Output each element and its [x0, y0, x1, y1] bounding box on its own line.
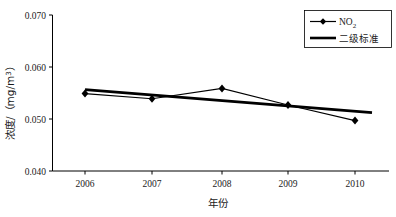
x-tick-label: 2006 — [76, 179, 95, 189]
x-tick-labels: 2006 2007 2008 2009 2010 — [76, 179, 365, 189]
svg-text:浓度/（mg/m3）: 浓度/（mg/m3） — [4, 61, 16, 140]
x-tick-label: 2007 — [143, 179, 162, 189]
series-markers-no2 — [82, 84, 359, 124]
y-tick-label: 0.060 — [25, 63, 47, 73]
x-tick-label: 2008 — [213, 179, 232, 189]
y-tick-label: 0.070 — [25, 11, 47, 21]
y-axis-title-end: ） — [4, 61, 16, 71]
x-axis-ticks — [85, 171, 355, 175]
y-tick-label: 0.050 — [25, 115, 47, 125]
chart-legend[interactable]: NO2 二级标准 — [305, 11, 392, 48]
y-axis-title: 浓度/（mg/m3） — [4, 61, 16, 140]
data-point-marker — [352, 117, 359, 125]
y-axis-title-main: 浓度/（mg/m — [4, 76, 16, 140]
series-line-standard — [85, 90, 372, 113]
chart-container: 0.070 0.060 0.050 0.040 2006 2007 2008 2… — [0, 0, 396, 217]
x-tick-label: 2010 — [346, 179, 365, 189]
y-axis-ticks — [49, 15, 53, 171]
no2-concentration-line-chart: 0.070 0.060 0.050 0.040 2006 2007 2008 2… — [0, 0, 396, 217]
data-point-marker — [219, 84, 226, 92]
x-axis-title: 年份 — [208, 197, 229, 209]
data-point-marker — [285, 101, 292, 109]
y-tick-label: 0.040 — [25, 167, 47, 177]
y-tick-labels: 0.070 0.060 0.050 0.040 — [25, 11, 47, 177]
x-tick-label: 2009 — [279, 179, 298, 189]
legend-label-standard: 二级标准 — [339, 33, 379, 44]
